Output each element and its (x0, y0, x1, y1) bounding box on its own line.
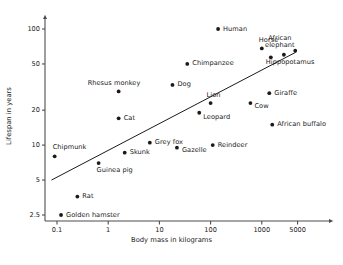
trend-line (51, 52, 295, 180)
point-label: Golden hamster (66, 212, 120, 219)
y-tick-label: 50 (8, 60, 40, 68)
point-label: Leopard (203, 114, 230, 121)
point-label: Lion (207, 92, 221, 99)
x-tick-label: 0.1 (37, 226, 77, 234)
x-tick-label: 5000 (278, 226, 318, 234)
point-label: African elephant (261, 35, 299, 50)
point-label: Giraffe (274, 90, 297, 97)
point-label: Gazelle (182, 147, 207, 154)
x-tick-label: 10 (139, 226, 179, 234)
point-label: Grey fox (155, 139, 183, 146)
point-label: Dog (177, 81, 190, 88)
point-label: African buffalo (277, 121, 326, 128)
data-points (53, 27, 297, 217)
y-tick-label: 2.5 (8, 211, 40, 219)
x-tick-label: 1000 (242, 226, 282, 234)
point-label: Guinea pig (97, 167, 133, 174)
point-label: Hippopotamus (266, 59, 315, 66)
point-label: Chimpanzee (192, 60, 234, 67)
point-label: Chipmunk (53, 144, 87, 151)
point-label: Rat (82, 193, 93, 200)
y-tick-label: 100 (8, 25, 40, 33)
point-label: Reindeer (218, 142, 248, 149)
y-tick-label: 5 (8, 176, 40, 184)
x-tick-label: 1 (88, 226, 128, 234)
y-axis-title: Lifespan in years (5, 76, 13, 156)
point-label: Skunk (130, 149, 150, 156)
scatter-chart: 2.551020501000.111010010005000 Golden ha… (0, 0, 343, 265)
x-tick-label: 100 (191, 226, 231, 234)
point-label: Cow (254, 103, 268, 110)
point-label: Rhesus monkey (88, 80, 141, 87)
point-label: Human (223, 26, 247, 33)
x-axis-title: Body mass in kilograms (0, 236, 343, 244)
point-label: Cat (124, 115, 135, 122)
